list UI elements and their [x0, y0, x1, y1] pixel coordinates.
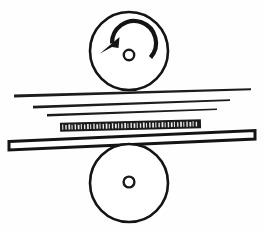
knurled-band-tooth — [81, 124, 82, 129]
knurled-band-tooth — [130, 123, 132, 128]
knurled-band-tooth — [183, 122, 184, 127]
knurled-band-tooth — [106, 123, 108, 128]
knurled-band-tooth — [115, 124, 117, 129]
knurled-band-tooth — [189, 122, 191, 127]
knurled-band-tooth — [196, 122, 198, 127]
knurled-band-tooth — [165, 123, 166, 128]
knurled-band-tooth — [103, 124, 105, 129]
knurled-band-tooth — [134, 123, 136, 128]
knurled-band-tooth — [146, 123, 147, 128]
knurled-band-tooth — [93, 124, 95, 129]
bottom-roller-axle-icon — [124, 177, 135, 188]
knurled-band-tooth — [112, 123, 114, 128]
rolling-mill-canvas — [0, 0, 264, 230]
knurled-band-tooth — [127, 123, 128, 128]
knurled-band-tooth — [96, 124, 98, 129]
knurled-band-tooth — [149, 122, 151, 127]
knurled-band-tooth — [109, 124, 110, 129]
knurled-band-tooth — [118, 123, 119, 128]
knurled-band-tooth — [171, 122, 173, 127]
knurled-band-tooth — [152, 123, 154, 128]
knurled-band-tooth — [186, 121, 188, 126]
knurled-band-tooth — [174, 122, 175, 127]
knurled-band-tooth — [137, 123, 138, 128]
bottom-roller-group — [90, 144, 168, 222]
knurled-band-tooth — [193, 121, 194, 126]
knurled-band-tooth — [78, 125, 80, 130]
knurled-band-tooth — [143, 123, 145, 128]
knurled-band-tooth — [161, 122, 163, 127]
knurled-band-tooth — [158, 123, 160, 128]
knurled-band-tooth — [180, 122, 182, 127]
knurled-band-tooth — [121, 124, 123, 129]
top-roller-axle-icon — [124, 50, 134, 60]
knurled-band-tooth — [168, 122, 170, 127]
rolling-mill-figure: Technical line drawing: a counterclockwi… — [0, 0, 264, 230]
knurled-band-tooth — [90, 124, 91, 129]
knurled-band-tooth — [177, 122, 179, 127]
knurled-band-tooth — [84, 124, 86, 129]
knurled-band-tooth — [140, 123, 142, 128]
knurled-band-tooth — [124, 123, 126, 128]
knurled-band-tooth — [65, 125, 67, 130]
knurled-band-tooth — [75, 124, 77, 129]
knurled-band-tooth — [155, 122, 156, 127]
knurled-band-tooth — [68, 124, 70, 129]
knurled-band-tooth — [87, 124, 89, 129]
top-roller-group — [90, 12, 168, 90]
knurled-band-tooth — [99, 124, 100, 129]
knurled-band-tooth — [71, 125, 72, 130]
knurled-band-tooth — [62, 125, 63, 130]
